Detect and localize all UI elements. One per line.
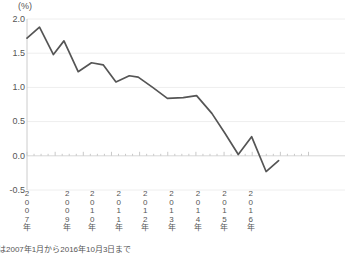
x-axis-tick-label: 2014年 bbox=[193, 190, 203, 233]
line-chart: (%) 2.0 1.5 1.0 0.5 0.0 -0.5 2007年2009年2… bbox=[0, 0, 345, 255]
x-axis-tick-label: 2015年 bbox=[219, 190, 229, 233]
x-axis-tick-label: 2011年 bbox=[114, 190, 124, 233]
x-axis-tick-label: 2009年 bbox=[62, 190, 72, 233]
x-axis-tick-label: 2012年 bbox=[140, 190, 150, 233]
x-axis-tick-label: 2010年 bbox=[87, 190, 97, 233]
x-axis-tick-label: 2013年 bbox=[167, 190, 177, 233]
x-axis-tick-labels: 2007年2009年2010年2011年2012年2013年2014年2015年… bbox=[0, 0, 345, 255]
x-axis-tick-label: 2016年 bbox=[246, 190, 256, 233]
chart-caption: は2007年1月から2016年10月3日まで bbox=[0, 245, 131, 254]
x-axis-tick-label: 2007年 bbox=[22, 190, 32, 233]
